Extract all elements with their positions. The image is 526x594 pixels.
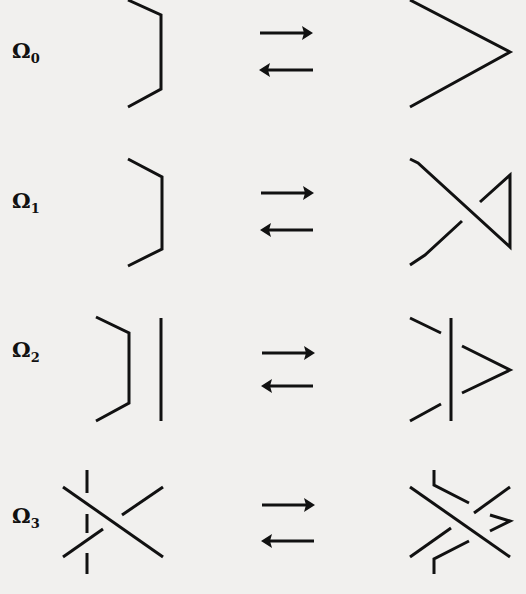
move-omega-3: Ω3 (12, 470, 510, 574)
omega-3-right-under-upper (474, 487, 510, 513)
omega-1-kink-understrand (410, 221, 462, 265)
omega-3-right-vertical-mid (490, 515, 510, 531)
omega-2-arrows (261, 346, 315, 393)
omega-3-right-vertical-top (434, 470, 469, 503)
move-label-omega-3: Ω3 (12, 503, 40, 531)
omega-0-right-strand (410, 0, 510, 107)
move-label-omega-2: Ω2 (12, 337, 40, 365)
reidemeister-moves-diagram: Ω0 Ω1 Ω2 (0, 0, 526, 594)
omega-0-left-strand (128, 0, 161, 107)
omega-3-left-under-lower (63, 529, 103, 557)
omega-2-right-under-lower (410, 404, 441, 421)
move-omega-1: Ω1 (12, 159, 510, 266)
omega-3-right-vertical-bottom (434, 541, 469, 574)
move-label-omega-0: Ω0 (12, 38, 40, 66)
omega-3-left-under-upper (122, 487, 163, 515)
omega-1-left-strand (128, 159, 162, 266)
omega-2-right-under-upper (410, 318, 441, 333)
move-omega-2: Ω2 (12, 317, 510, 421)
omega-2-left-bent-strand (96, 317, 129, 421)
move-omega-0: Ω0 (12, 0, 510, 107)
omega-2-right-under-middle (462, 346, 510, 393)
omega-0-arrows (259, 26, 313, 77)
omega-1-arrows (260, 186, 314, 237)
omega-3-arrows (261, 498, 315, 548)
omega-1-kink-overstrand (410, 159, 510, 247)
move-label-omega-1: Ω1 (12, 188, 40, 216)
